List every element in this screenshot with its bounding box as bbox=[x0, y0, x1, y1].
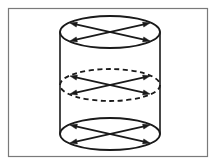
cylinder-diagram-svg bbox=[0, 0, 218, 167]
figure-root bbox=[0, 0, 218, 167]
